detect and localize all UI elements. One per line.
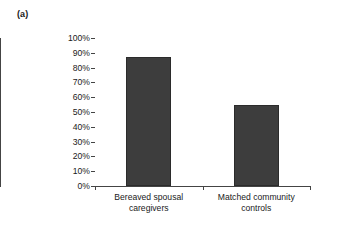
y-axis-tick-label: 10% bbox=[73, 167, 90, 176]
y-axis-tick bbox=[91, 97, 95, 98]
y-axis-tick bbox=[91, 38, 95, 39]
bar bbox=[234, 105, 279, 186]
y-axis-line bbox=[0, 38, 1, 187]
x-axis-tick bbox=[95, 186, 96, 190]
y-axis-tick bbox=[91, 68, 95, 69]
y-axis-tick-label: 80% bbox=[73, 63, 90, 72]
x-axis-category-label-line: controls bbox=[203, 203, 311, 214]
plot-area: 0%10%20%30%40%50%60%70%80%90%100% bbox=[95, 38, 310, 186]
y-axis-tick bbox=[91, 156, 95, 157]
y-axis-tick-label: 30% bbox=[73, 137, 90, 146]
bar bbox=[126, 57, 171, 186]
x-axis-category-label-line: Bereaved spousal bbox=[95, 192, 203, 203]
y-axis-tick-label: 0% bbox=[78, 182, 90, 191]
y-axis-tick-label: 60% bbox=[73, 93, 90, 102]
y-axis-tick bbox=[91, 112, 95, 113]
y-axis-tick-label: 90% bbox=[73, 48, 90, 57]
y-axis-tick-label: 40% bbox=[73, 122, 90, 131]
y-axis-tick bbox=[91, 171, 95, 172]
y-axis-tick bbox=[91, 127, 95, 128]
y-axis-tick bbox=[91, 142, 95, 143]
y-axis-tick-label: 70% bbox=[73, 78, 90, 87]
y-axis-tick-label: 100% bbox=[68, 34, 90, 43]
y-axis-tick bbox=[91, 53, 95, 54]
y-axis-tick bbox=[91, 82, 95, 83]
x-axis-tick bbox=[310, 186, 311, 190]
x-axis-category-label: Bereaved spousalcaregivers bbox=[95, 192, 203, 214]
x-axis-category-label-line: caregivers bbox=[95, 203, 203, 214]
y-axis-tick-label: 20% bbox=[73, 152, 90, 161]
y-axis-tick-label: 50% bbox=[73, 108, 90, 117]
x-axis-tick bbox=[203, 186, 204, 190]
x-axis-category-label: Matched communitycontrols bbox=[203, 192, 311, 214]
panel-label: (a) bbox=[17, 9, 28, 20]
x-axis-category-label-line: Matched community bbox=[203, 192, 311, 203]
